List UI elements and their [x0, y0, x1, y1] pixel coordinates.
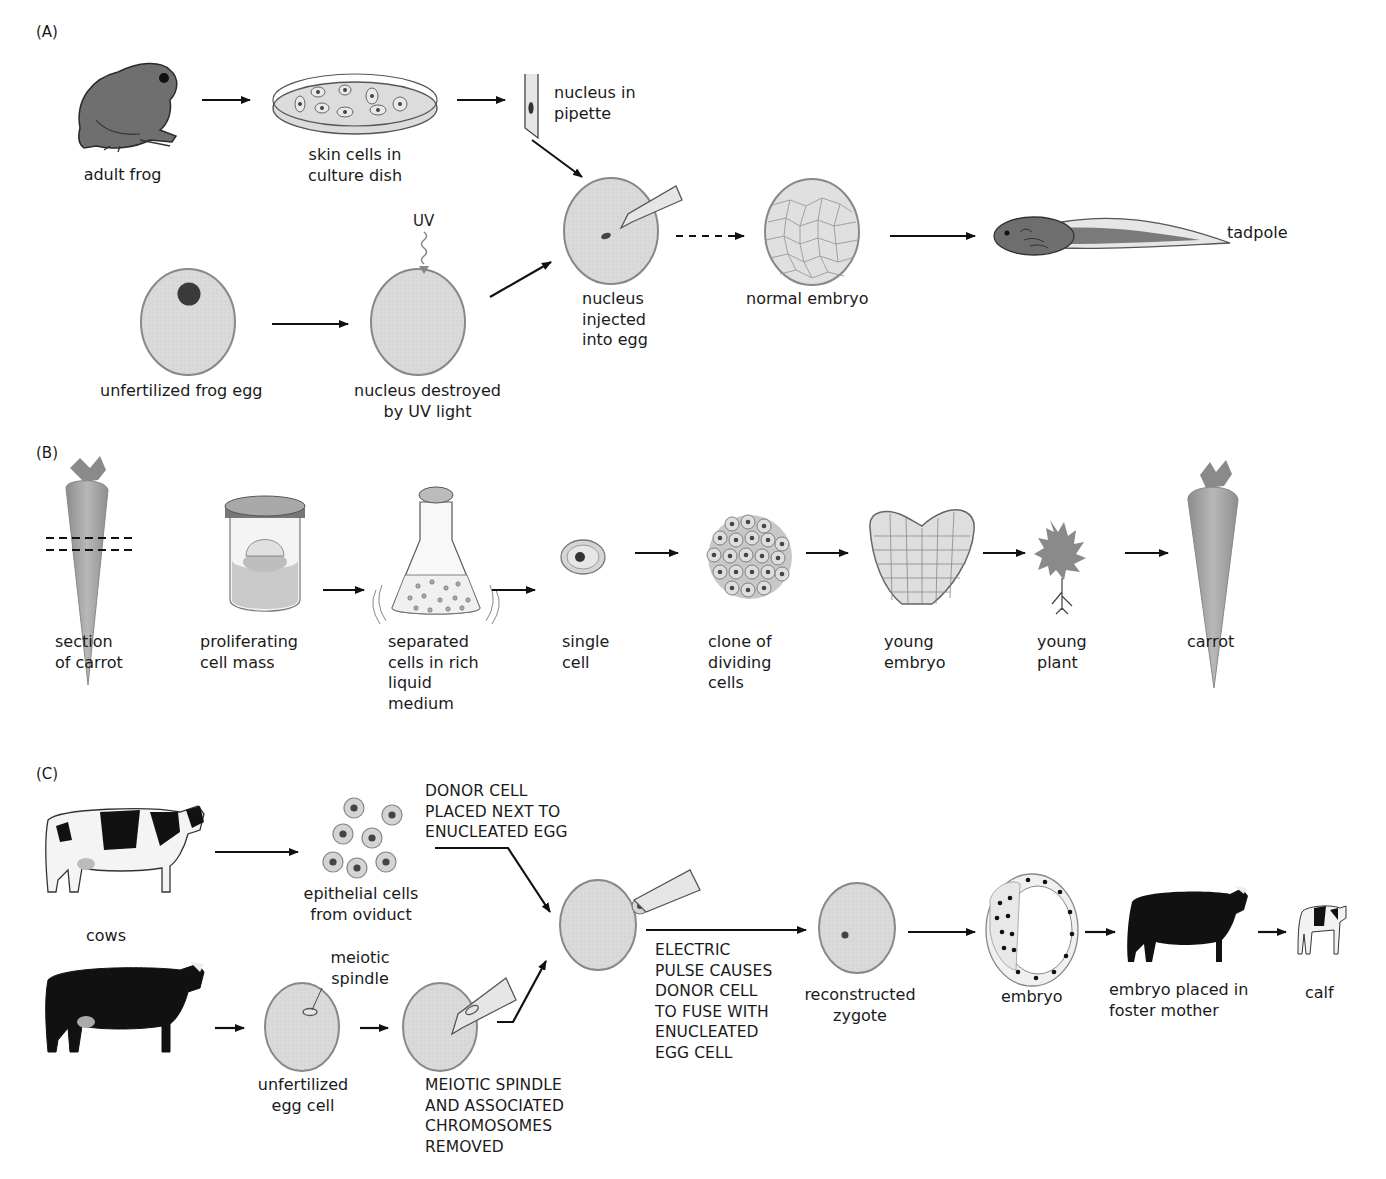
label-nucleus-destroyed: nucleus destroyed by UV light — [345, 381, 510, 422]
label-tadpole: tadpole — [1227, 223, 1287, 244]
label-epithelial-cells: epithelial cells from oviduct — [296, 884, 426, 925]
enucleated-egg-cell-icon — [403, 983, 477, 1071]
enucleated-egg-icon — [371, 269, 465, 375]
foster-mother-cow-icon — [1127, 886, 1248, 962]
calf-icon — [1298, 906, 1346, 954]
label-spindle-removed: MEIOTIC SPINDLE AND ASSOCIATED CHROMOSOM… — [425, 1075, 564, 1157]
label-donor-cell-placed: DONOR CELL PLACED NEXT TO ENUCLEATED EGG — [425, 781, 568, 843]
label-embryo: embryo — [1001, 987, 1062, 1008]
label-reconstructed-zygote: reconstructed zygote — [800, 985, 920, 1026]
label-separated-cells: separated cells in rich liquid medium — [388, 632, 479, 714]
epithelial-cells-icon — [323, 798, 402, 878]
label-normal-embryo: normal embryo — [746, 289, 869, 310]
nucleus-injected-egg-icon — [564, 178, 658, 284]
reconstructed-zygote-icon — [819, 883, 895, 973]
label-adult-frog: adult frog — [70, 165, 175, 186]
flask-icon — [373, 487, 499, 624]
label-unfertilized-frog-egg: unfertilized frog egg — [100, 381, 262, 402]
label-calf: calf — [1305, 983, 1334, 1004]
label-nucleus-in-pipette: nucleus in pipette — [554, 83, 636, 124]
label-meiotic-spindle: meiotic spindle — [320, 948, 400, 989]
tadpole-icon — [994, 217, 1230, 255]
young-plant-icon — [1034, 520, 1086, 614]
clone-of-dividing-cells-icon — [707, 515, 792, 599]
panel-a-tag: (A) — [36, 22, 58, 43]
label-nucleus-injected: nucleus injected into egg — [582, 289, 648, 351]
single-cell-icon — [561, 540, 605, 574]
label-single-cell: single cell — [562, 632, 609, 673]
panel-b-tag: (B) — [36, 443, 58, 464]
carrot-icon — [1188, 460, 1238, 688]
embryo-blastocyst-icon — [986, 874, 1078, 986]
adult-frog-icon — [79, 63, 177, 152]
normal-embryo-icon — [765, 179, 859, 285]
label-cows: cows — [86, 926, 126, 947]
uv-ray-icon — [422, 232, 427, 264]
meiotic-spindle-icon — [303, 1009, 317, 1016]
label-clone-of-dividing-cells: clone of dividing cells — [708, 632, 772, 694]
young-embryo-icon — [870, 510, 974, 604]
label-electric-pulse: ELECTRIC PULSE CAUSES DONOR CELL TO FUSE… — [655, 940, 772, 1063]
panel-c-tag: (C) — [36, 764, 58, 785]
label-proliferating-cell-mass: proliferating cell mass — [200, 632, 298, 673]
label-carrot: carrot — [1187, 632, 1234, 653]
unfertilized-egg-cell-icon — [265, 983, 339, 1071]
holstein-cow-icon — [46, 806, 204, 892]
label-young-plant: young plant — [1037, 632, 1087, 673]
egg-with-donor-cell-icon — [560, 880, 636, 970]
label-embryo-placed-in-foster: embryo placed in foster mother — [1109, 980, 1248, 1021]
label-section-of-carrot: section of carrot — [55, 632, 123, 673]
label-unfertilized-egg-cell: unfertilized egg cell — [248, 1075, 358, 1116]
black-cow-icon — [46, 962, 204, 1052]
pipette-icon — [525, 74, 538, 138]
label-uv: UV — [413, 211, 434, 232]
label-young-embryo: young embryo — [884, 632, 945, 673]
culture-dish-icon — [273, 74, 437, 134]
label-skin-cells: skin cells in culture dish — [295, 145, 415, 186]
culture-jar-icon — [225, 496, 305, 611]
